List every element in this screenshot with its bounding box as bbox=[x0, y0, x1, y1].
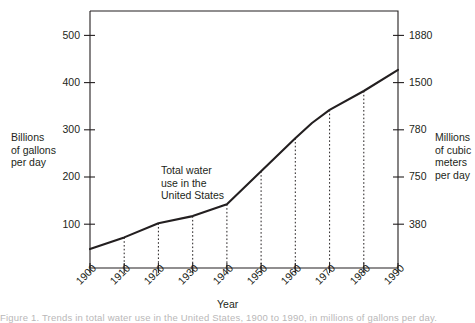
y-axis-left-title: Billions of gallons per day bbox=[11, 131, 56, 169]
chart-annotation: Total water use in the United States bbox=[161, 164, 224, 202]
x-axis-title: Year bbox=[217, 299, 238, 310]
y-tick-label-right-1880: 1880 bbox=[409, 30, 432, 41]
y-tick-label-left-400: 400 bbox=[48, 77, 80, 88]
y-axis-right-title-line1: Millions bbox=[435, 131, 471, 144]
y-tick-label-right-750: 750 bbox=[409, 171, 427, 182]
figure-caption: Figure 1. Trends in total water use in t… bbox=[0, 313, 475, 323]
water-use-series-line bbox=[90, 70, 398, 249]
y-axis-right-title-line3: meters bbox=[435, 156, 471, 169]
y-axis-right-title: Millions of cubic meters per day bbox=[435, 131, 471, 181]
chart-annotation-line3: United States bbox=[161, 189, 224, 202]
y-axis-right-title-line4: per day bbox=[435, 169, 471, 182]
y-tick-label-left-200: 200 bbox=[48, 171, 80, 182]
y-axis-left-title-line3: per day bbox=[11, 156, 56, 169]
plot-frame-top-right bbox=[90, 11, 398, 268]
y-axis-right-title-line2: of cubic bbox=[435, 144, 471, 157]
chart-annotation-line1: Total water bbox=[161, 164, 224, 177]
y-axis-left-title-line2: of gallons bbox=[11, 144, 56, 157]
y-axis-left-title-line1: Billions bbox=[11, 131, 56, 144]
y-tick-label-right-780: 780 bbox=[409, 124, 427, 135]
y-tick-label-left-500: 500 bbox=[48, 30, 80, 41]
y-tick-label-right-1500: 1500 bbox=[409, 77, 432, 88]
chart-annotation-line2: use in the bbox=[161, 177, 224, 190]
y-tick-label-right-380: 380 bbox=[409, 219, 427, 230]
y-tick-label-left-100: 100 bbox=[48, 219, 80, 230]
